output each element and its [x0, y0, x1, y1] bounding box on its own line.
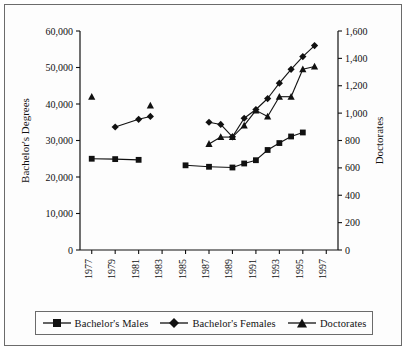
square-data-point: [136, 157, 142, 163]
square-data-point: [288, 134, 294, 140]
chart-frame: 010,00020,00030,00040,00050,00060,000020…: [4, 4, 402, 346]
chart-legend: Bachelor's Males Bachelor's Females Doct…: [35, 311, 373, 335]
y-axis-left-tick-label: 20,000: [46, 172, 74, 183]
square-marker-icon: [42, 317, 72, 329]
triangle-data-point: [147, 102, 154, 109]
line-chart: 010,00020,00030,00040,00050,00060,000020…: [5, 5, 403, 305]
y-axis-left-tick-label: 60,000: [46, 26, 74, 37]
x-axis-tick-label: 1991: [247, 259, 258, 279]
series-segment: [115, 119, 138, 127]
square-data-point: [253, 157, 259, 163]
square-data-point: [265, 147, 271, 153]
series-segment: [115, 159, 138, 160]
series-bachelor-s-females: [112, 42, 319, 140]
square-data-point: [89, 156, 95, 162]
series-segment: [186, 165, 209, 166]
square-data-point: [241, 161, 247, 167]
y-axis-right-tick-label: 800: [345, 135, 360, 146]
triangle-data-point: [264, 113, 271, 120]
y-axis-right-tick-label: 200: [345, 217, 360, 228]
x-axis-tick-label: 1979: [106, 259, 117, 279]
series-segment: [291, 57, 303, 70]
y-axis-right-tick-label: 600: [345, 162, 360, 173]
y-axis-right-tick-label: 1,200: [345, 80, 368, 91]
legend-label-bachelors-males: Bachelor's Males: [75, 318, 149, 329]
x-axis-tick-label: 1993: [270, 259, 281, 279]
series-segment: [279, 69, 291, 83]
x-axis-tick-label: 1987: [200, 259, 211, 279]
x-axis-tick-label: 1977: [83, 259, 94, 279]
y-axis-right-tick-label: 1,000: [345, 108, 368, 119]
y-axis-right-tick-label: 400: [345, 190, 360, 201]
legend-item-bachelors-males: Bachelor's Males: [42, 317, 149, 329]
series-bachelor-s-males: [89, 130, 306, 171]
triangle-data-point: [88, 93, 95, 100]
y-axis-left-tick-label: 0: [68, 245, 73, 256]
triangle-marker-icon: [287, 317, 317, 329]
x-axis-tick-label: 1995: [294, 259, 305, 279]
y-axis-left-tick-label: 30,000: [46, 135, 74, 146]
legend-item-doctorates: Doctorates: [287, 317, 366, 329]
square-data-point: [300, 130, 306, 136]
series-segment: [209, 167, 232, 168]
legend-label-bachelors-females: Bachelor's Females: [192, 318, 275, 329]
x-axis-tick-label: 1985: [177, 259, 188, 279]
square-data-point: [112, 156, 118, 162]
y-axis-left-tick-label: 50,000: [46, 62, 74, 73]
triangle-data-point: [311, 63, 318, 70]
x-axis-tick-label: 1989: [223, 259, 234, 279]
square-data-point: [276, 140, 282, 146]
y-axis-left-title: Bachelor's Degrees: [19, 98, 31, 183]
series-doctorates: [88, 63, 318, 147]
square-data-point: [206, 164, 212, 170]
x-axis-tick-label: 1997: [317, 259, 328, 279]
diamond-data-point: [147, 113, 154, 120]
x-axis-tick-label: 1981: [130, 259, 141, 279]
y-axis-right-title: Doctorates: [373, 117, 385, 165]
legend-item-bachelors-females: Bachelor's Females: [159, 317, 275, 329]
diamond-data-point: [112, 123, 119, 130]
y-axis-right-tick-label: 1,400: [345, 53, 368, 64]
y-axis-left-tick-label: 10,000: [46, 208, 74, 219]
diamond-marker-icon: [159, 317, 189, 329]
square-data-point: [183, 162, 189, 168]
y-axis-right-tick-label: 0: [345, 245, 350, 256]
diamond-data-point: [205, 119, 212, 126]
series-segment: [221, 124, 233, 136]
triangle-data-point: [205, 140, 212, 147]
square-data-point: [230, 165, 236, 171]
y-axis-left-tick-label: 40,000: [46, 99, 74, 110]
chart-plot-area: 010,00020,00030,00040,00050,00060,000020…: [5, 5, 403, 305]
x-axis-tick-label: 1983: [153, 259, 164, 279]
series-segment: [291, 69, 303, 96]
y-axis-right-tick-label: 1,600: [345, 26, 368, 37]
legend-label-doctorates: Doctorates: [320, 318, 366, 329]
diamond-data-point: [135, 116, 142, 123]
